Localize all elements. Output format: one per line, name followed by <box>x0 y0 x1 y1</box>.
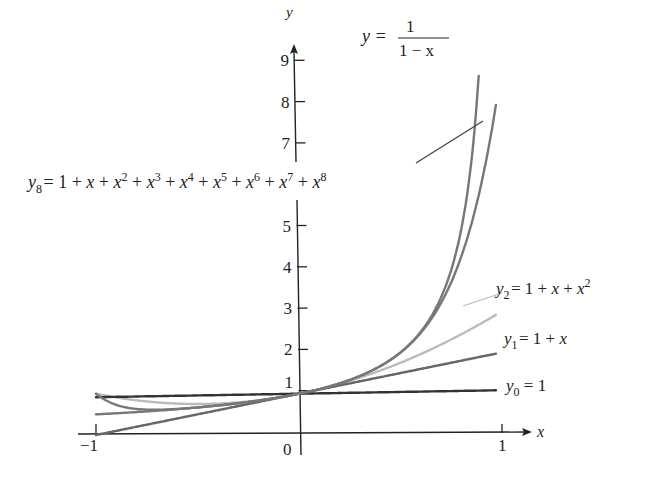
label-y1: y1 = 1 + x <box>502 329 567 352</box>
svg-text:1: 1 <box>406 17 415 36</box>
label-y2: y2 = 1 + x + x2 <box>494 276 591 302</box>
x-axis <box>78 432 526 434</box>
x-tick-label: −1 <box>80 436 98 455</box>
y-tick-label: 8 <box>281 93 290 112</box>
y-tick-label: 1 <box>285 373 294 392</box>
x-tick-label: 1 <box>498 436 507 455</box>
reciprocal-denominator: 1 − x <box>399 41 435 60</box>
x-tick-label: 0 <box>283 440 292 459</box>
label-y8: y8 = 1 + x + x2 + x3 + x4 + x5 + x6 + x7… <box>26 170 326 196</box>
y-axis-lower <box>297 200 301 455</box>
label-reciprocal: y = 1 1 − x <box>360 17 449 60</box>
taylor-series-chart: 12345789−101 y x y = 1 1 − x y8 = 1 + x … <box>0 0 658 480</box>
axis-ticks <box>96 60 502 433</box>
svg-text:y =: y = <box>360 26 387 46</box>
label-y0: y0 = 1 <box>504 376 546 399</box>
y-tick-label: 4 <box>283 258 292 277</box>
x-axis-label: x <box>536 423 544 440</box>
y-axis-label: y <box>284 4 293 20</box>
y-tick-label: 3 <box>284 299 293 318</box>
axis-tick-labels: 12345789−101 <box>80 51 507 459</box>
y-tick-label: 5 <box>283 217 292 236</box>
y-tick-label: 2 <box>284 340 293 359</box>
y-tick-label: 9 <box>281 51 290 70</box>
y-axis-upper <box>294 52 296 162</box>
y-tick-label: 7 <box>282 134 291 153</box>
curve-reciprocal <box>96 76 479 415</box>
